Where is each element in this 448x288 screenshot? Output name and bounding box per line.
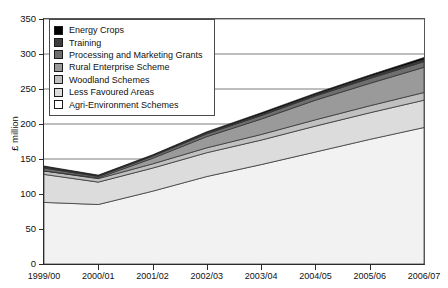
legend-swatch-icon	[54, 38, 63, 47]
x-axis-tick-mark	[370, 265, 371, 270]
x-axis-tick-label: 1999/00	[14, 271, 74, 281]
legend-item[interactable]: Less Favoured Areas	[54, 86, 209, 98]
legend-item[interactable]: Training	[54, 36, 209, 48]
x-axis-tick-label: 2004/05	[285, 271, 345, 281]
legend-item-label: Training	[69, 38, 101, 48]
legend-item-label: Rural Enterprise Scheme	[69, 62, 170, 72]
y-axis-tick-label: 50	[6, 224, 36, 234]
x-axis-tick-label: 2006/07	[394, 271, 448, 281]
legend: Energy CropsTrainingProcessing and Marke…	[49, 19, 215, 116]
x-axis-tick-label: 2000/01	[68, 271, 128, 281]
legend-item[interactable]: Energy Crops	[54, 24, 209, 36]
y-axis-tick-label: 350	[6, 14, 36, 24]
y-axis-tick-label: 100	[6, 189, 36, 199]
stacked-area-chart: £ million 050100150200250300350 1999/002…	[0, 0, 448, 288]
y-axis-tick-label: 0	[6, 259, 36, 269]
x-axis-tick-label: 2005/06	[340, 271, 400, 281]
x-axis-tick-label: 2002/03	[177, 271, 237, 281]
y-axis-tick-label: 300	[6, 49, 36, 59]
x-axis-tick-label: 2003/04	[231, 271, 291, 281]
legend-item[interactable]: Agri-Environment Schemes	[54, 98, 209, 110]
legend-swatch-icon	[54, 26, 63, 35]
y-axis-title: £ million	[9, 99, 20, 169]
legend-swatch-icon	[54, 75, 63, 84]
legend-swatch-icon	[54, 50, 63, 59]
x-axis-tick-label: 2001/02	[123, 271, 183, 281]
x-axis-tick-mark	[261, 265, 262, 270]
legend-swatch-icon	[54, 88, 63, 97]
x-axis-tick-mark	[207, 265, 208, 270]
legend-item-label: Processing and Marketing Grants	[69, 50, 203, 60]
y-axis-tick-label: 250	[6, 84, 36, 94]
legend-item-label: Woodland Schemes	[69, 75, 149, 85]
legend-item[interactable]: Processing and Marketing Grants	[54, 49, 209, 61]
legend-swatch-icon	[54, 63, 63, 72]
legend-item[interactable]: Rural Enterprise Scheme	[54, 61, 209, 73]
legend-swatch-icon	[54, 100, 63, 109]
x-axis-tick-mark	[153, 265, 154, 270]
legend-item[interactable]: Woodland Schemes	[54, 74, 209, 86]
x-axis-tick-mark	[315, 265, 316, 270]
x-axis-tick-mark	[98, 265, 99, 270]
legend-item-label: Energy Crops	[69, 25, 124, 35]
legend-item-label: Agri-Environment Schemes	[69, 100, 179, 110]
legend-item-label: Less Favoured Areas	[69, 87, 154, 97]
